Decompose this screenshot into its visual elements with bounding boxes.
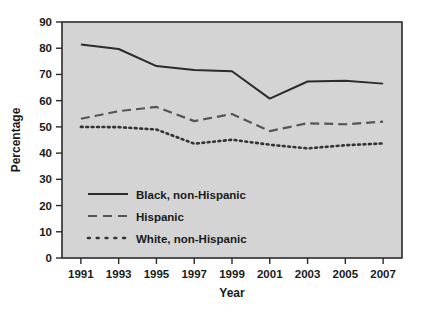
x-tick-label: 2005 <box>333 268 359 280</box>
y-tick-label: 30 <box>39 173 52 185</box>
x-tick-label: 1999 <box>219 268 245 280</box>
x-tick-label: 1995 <box>144 268 170 280</box>
y-tick-label: 0 <box>46 252 52 264</box>
y-tick-label: 10 <box>39 226 52 238</box>
y-tick-label: 40 <box>39 147 52 159</box>
y-axis-title: Percentage <box>9 107 23 172</box>
x-tick-label: 2001 <box>257 268 283 280</box>
y-tick-label: 70 <box>39 68 52 80</box>
y-tick-label: 80 <box>39 42 52 54</box>
x-tick-label: 1991 <box>68 268 94 280</box>
y-tick-label: 20 <box>39 200 52 212</box>
x-tick-label: 2007 <box>370 268 396 280</box>
legend-label: White, non-Hispanic <box>136 233 247 245</box>
y-tick-label: 50 <box>39 121 52 133</box>
legend-label: Hispanic <box>136 211 185 223</box>
y-tick-label: 90 <box>39 16 52 28</box>
x-tick-label: 2003 <box>295 268 321 280</box>
x-tick-label: 1997 <box>181 268 207 280</box>
legend-label: Black, non-Hispanic <box>136 189 247 201</box>
line-chart: 0102030405060708090 19911993199519971999… <box>0 0 425 312</box>
y-tick-label: 60 <box>39 95 52 107</box>
chart-container: 0102030405060708090 19911993199519971999… <box>0 0 425 312</box>
x-axis-title: Year <box>219 286 245 300</box>
x-tick-label: 1993 <box>106 268 132 280</box>
